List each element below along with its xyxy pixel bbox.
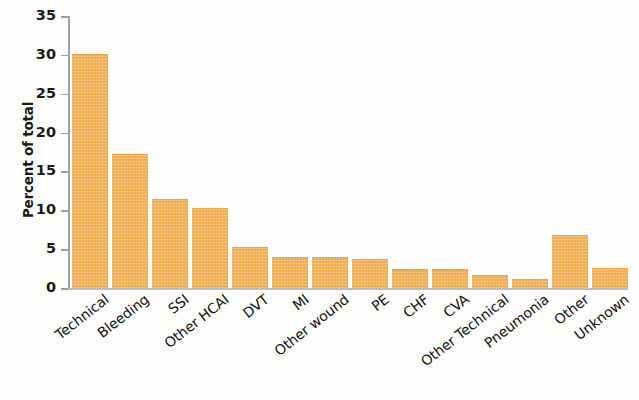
y-tick-label: 30 [22,46,56,62]
y-tick-mark [61,171,68,173]
y-tick-mark [61,16,68,18]
y-tick-label: 5 [22,240,56,256]
y-tick-mark [61,55,68,57]
y-tick-label: 20 [22,124,56,140]
bar [192,208,228,288]
y-tick-label: 35 [22,7,56,23]
y-tick-mark [61,288,68,290]
bar [72,54,108,288]
bar [312,257,348,288]
y-tick-mark [61,94,68,96]
bars-group [68,16,628,288]
y-tick-mark [61,133,68,135]
x-axis-tick-labels: TechnicalBleedingSSIOther HCAIDVTMIOther… [68,291,639,400]
bar-chart: Percent of total 05101520253035 Technica… [0,0,639,400]
y-tick-mark [61,249,68,251]
plot-area: 05101520253035 [68,16,628,288]
y-tick-mark [61,210,68,212]
y-tick-label: 15 [22,162,56,178]
y-tick-label: 10 [22,201,56,217]
y-tick-label: 25 [22,85,56,101]
y-tick-label: 0 [22,279,56,295]
